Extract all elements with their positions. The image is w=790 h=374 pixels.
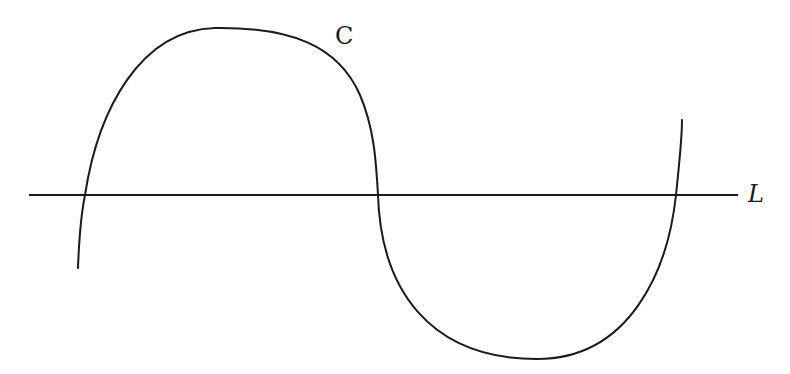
curve-line-diagram: C L xyxy=(0,0,790,374)
line-label: L xyxy=(747,180,764,208)
curve-label: C xyxy=(335,22,353,50)
curve-c xyxy=(78,28,682,359)
